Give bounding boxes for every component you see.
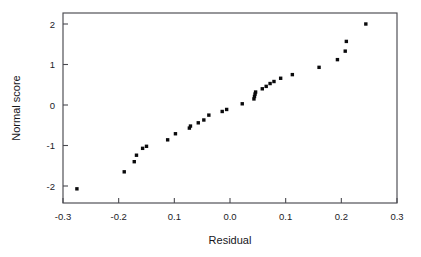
data-point: [317, 66, 320, 69]
data-point: [254, 90, 257, 93]
y-tick-label-0: 2: [50, 19, 55, 30]
data-point: [166, 138, 169, 141]
x-axis-title: Residual: [209, 234, 252, 246]
y-tick-label-4: -2: [47, 181, 55, 192]
data-point: [264, 85, 267, 88]
x-tick-label-1: -0.2: [110, 211, 126, 222]
data-point: [345, 40, 348, 43]
scatter-chart-figure: -0.3-0.20.10.00.10.20.3 210-1-2 Residual…: [0, 0, 421, 257]
data-point: [261, 87, 264, 90]
y-axis-title: Normal score: [10, 75, 22, 140]
x-tick-label-3: 0.0: [223, 211, 236, 222]
x-tick-label-2: 0.1: [168, 211, 181, 222]
data-point: [133, 160, 136, 163]
x-tick-label-0: -0.3: [55, 211, 71, 222]
data-point: [344, 49, 347, 52]
data-point: [279, 77, 282, 80]
data-point: [135, 154, 138, 157]
data-point: [123, 170, 126, 173]
normal-probability-plot-screenshot: -0.3-0.20.10.00.10.20.3 210-1-2 Residual…: [0, 0, 421, 257]
data-point: [207, 113, 210, 116]
x-tick-label-6: 0.3: [390, 211, 403, 222]
y-tick-label-1: 1: [50, 59, 55, 70]
x-tick-label-5: 0.2: [335, 211, 348, 222]
data-point: [75, 187, 78, 190]
data-point: [364, 22, 367, 25]
data-point: [272, 80, 275, 83]
data-point: [291, 73, 294, 76]
data-point: [141, 147, 144, 150]
data-point: [145, 145, 148, 148]
y-tick-label-2: 0: [50, 100, 55, 111]
data-point: [221, 110, 224, 113]
x-tick-label-4: 0.1: [279, 211, 292, 222]
data-point: [174, 132, 177, 135]
data-point: [241, 102, 244, 105]
data-point: [336, 58, 339, 61]
data-point: [202, 118, 205, 121]
data-point: [268, 82, 271, 85]
data-point: [197, 121, 200, 124]
data-point: [189, 124, 192, 127]
y-tick-label-3: -1: [47, 140, 55, 151]
data-point: [225, 108, 228, 111]
